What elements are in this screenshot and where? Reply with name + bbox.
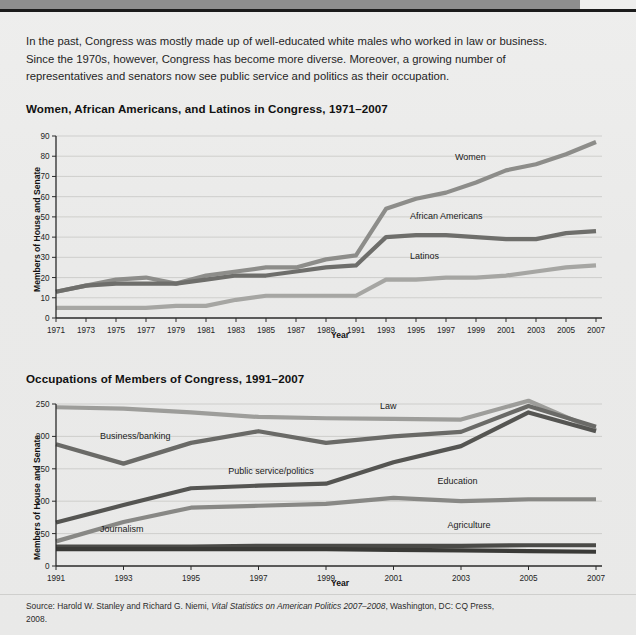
x-tick-label: 1995 — [182, 574, 201, 583]
x-tick-label: 2005 — [519, 574, 538, 583]
x-tick-label: 2003 — [452, 574, 471, 583]
figure1-title: Women, African Americans, and Latinos in… — [26, 102, 388, 115]
y-tick-label: 60 — [40, 193, 50, 202]
x-tick-label: 1983 — [227, 326, 246, 335]
y-tick-label: 90 — [40, 132, 50, 141]
x-tick-label: 1977 — [137, 326, 156, 335]
y-tick-label: 20 — [40, 274, 50, 283]
x-tick-label: 1987 — [287, 326, 306, 335]
x-tick-label: 1993 — [377, 326, 396, 335]
source-note: Source: Harold W. Stanley and Richard G.… — [26, 600, 496, 625]
source-line1-pre: Source: Harold W. Stanley and Richard G.… — [26, 601, 211, 611]
series-label-women: Women — [455, 152, 486, 162]
series-label-journalism: Journalism — [100, 524, 144, 534]
series-line-journalism — [56, 545, 596, 546]
series-line-agriculture — [56, 549, 596, 552]
y-tick-label: 0 — [45, 562, 50, 571]
y-tick-label: 200 — [36, 432, 50, 441]
figure1-line-chart: 0102030405060708090197119731975197719791… — [26, 124, 610, 344]
y-tick-label: 80 — [40, 152, 50, 161]
y-tick-label: 70 — [40, 172, 50, 181]
x-tick-label: 1991 — [47, 574, 66, 583]
series-label-public-service-politics: Public service/politics — [228, 466, 314, 476]
x-tick-label: 1975 — [107, 326, 126, 335]
series-line-business-banking — [56, 412, 596, 522]
series-label-african-americans: African Americans — [410, 211, 483, 221]
chart2-svg: 0501001502002501991199319951997199920012… — [26, 392, 610, 592]
series-label-law: Law — [380, 401, 397, 411]
x-tick-label: 2001 — [384, 574, 403, 583]
y-tick-label: 250 — [36, 400, 50, 409]
x-tick-label: 1995 — [407, 326, 426, 335]
y-tick-label: 10 — [40, 294, 50, 303]
y-tick-label: 50 — [40, 530, 50, 539]
top-header-rule — [0, 9, 636, 12]
series-label-business-banking: Business/banking — [100, 431, 171, 441]
x-tick-label: 1989 — [317, 326, 336, 335]
x-tick-label: 2007 — [587, 574, 606, 583]
y-tick-label: 50 — [40, 213, 50, 222]
x-tick-label: 1981 — [197, 326, 216, 335]
x-tick-label: 1971 — [47, 326, 66, 335]
y-tick-label: 150 — [36, 465, 50, 474]
source-title-italic: Vital Statistics on American Politics 20… — [211, 601, 385, 611]
x-tick-label: 1979 — [167, 326, 186, 335]
series-label-agriculture: Agriculture — [448, 520, 491, 530]
series-line-law — [56, 401, 596, 430]
x-tick-label: 2007 — [587, 326, 606, 335]
x-tick-label: 1997 — [249, 574, 268, 583]
x-tick-label: 1999 — [317, 574, 336, 583]
x-tick-label: 1993 — [114, 574, 133, 583]
x-tick-label: 2001 — [497, 326, 516, 335]
x-tick-label: 1991 — [347, 326, 366, 335]
y-tick-label: 30 — [40, 253, 50, 262]
figure2-line-chart: 0501001502002501991199319951997199920012… — [26, 392, 610, 592]
series-line-education — [56, 498, 596, 541]
series-label-latinos: Latinos — [410, 251, 440, 261]
x-tick-label: 2005 — [557, 326, 576, 335]
x-tick-label: 1973 — [77, 326, 96, 335]
y-tick-label: 100 — [36, 497, 50, 506]
series-label-education: Education — [437, 476, 477, 486]
x-tick-label: 2003 — [527, 326, 546, 335]
footer-divider — [0, 594, 636, 595]
y-tick-label: 0 — [45, 314, 50, 323]
y-tick-label: 40 — [40, 233, 50, 242]
x-tick-label: 1997 — [437, 326, 456, 335]
intro-paragraph: In the past, Congress was mostly made up… — [26, 33, 571, 86]
x-tick-label: 1999 — [467, 326, 486, 335]
figure2-title: Occupations of Members of Congress, 1991… — [26, 372, 304, 385]
x-tick-label: 1985 — [257, 326, 276, 335]
source-line1-post: , — [385, 601, 387, 611]
chart1-svg: 0102030405060708090197119731975197719791… — [26, 124, 610, 344]
series-line-latinos — [56, 265, 596, 307]
